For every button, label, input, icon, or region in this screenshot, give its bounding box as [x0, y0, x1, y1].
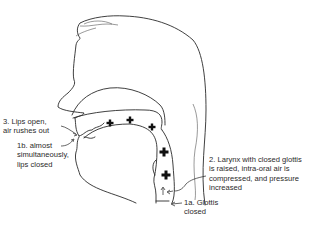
label-line: compressed, and pressure [209, 174, 302, 183]
larynx-leader [174, 176, 206, 191]
brow-line [80, 24, 118, 26]
lips-open-leader [61, 126, 77, 136]
label-lips-open: 3. Lips open, air rushes out [3, 117, 49, 136]
neck-line [193, 104, 197, 200]
label-line: simultaneously, [17, 150, 69, 159]
brow-line-3 [76, 28, 96, 36]
pressure-markers [107, 117, 171, 180]
label-glottis: 1a. Glottis closed [184, 198, 218, 217]
label-lips-closed: 1b. almost simultaneously, lips closed [17, 141, 69, 169]
label-line: is raised, intra-oral air is [209, 164, 302, 173]
plus-icon [160, 148, 169, 157]
plus-icon [127, 117, 134, 124]
label-line: lips closed [17, 160, 69, 169]
label-line: 1b. almost [17, 141, 69, 150]
lips [75, 118, 104, 138]
label-line: 3. Lips open, [3, 117, 49, 126]
label-larynx: 2. Larynx with closed glottis is raised,… [209, 155, 302, 193]
brow-line-2 [84, 21, 112, 24]
glottis-up-arrow [161, 187, 165, 195]
label-line: closed [184, 207, 218, 216]
plus-icon [162, 171, 171, 180]
label-line: air rushes out [3, 126, 49, 135]
palate [72, 88, 165, 125]
label-line: increased [209, 183, 302, 192]
tongue-surface [84, 124, 157, 203]
lower-lip [75, 137, 136, 203]
label-line: 1a. Glottis [184, 198, 218, 207]
larynx-arrow [167, 190, 173, 194]
head-outline [58, 16, 206, 205]
vocal-tract-diagram [0, 0, 316, 227]
plus-icon [149, 124, 156, 131]
label-line: 2. Larynx with closed glottis [209, 155, 302, 164]
